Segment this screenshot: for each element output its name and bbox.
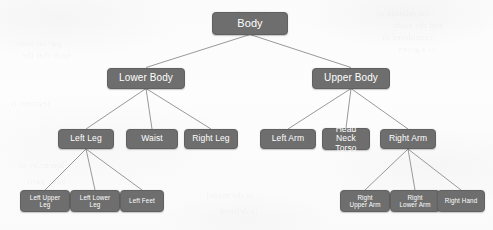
- node-label-right-hand: Right Hand: [445, 197, 478, 204]
- bleed-text-fragment: hierarchy of: [18, 160, 64, 170]
- node-left-upper-leg[interactable]: Left Upper Leg: [20, 190, 70, 212]
- diagram-canvas: the relation ofand the studyconsidered i…: [0, 0, 493, 230]
- node-label-right-leg: Right Leg: [192, 134, 229, 144]
- node-right-upper-arm[interactable]: Right Upper Arm: [340, 190, 390, 212]
- node-label-body: Body: [237, 17, 262, 29]
- node-left-lower-leg[interactable]: Left Lower Leg: [70, 190, 120, 212]
- node-left-leg[interactable]: Left Leg: [58, 129, 114, 149]
- edge-upper-body-to-left-arm: [288, 89, 351, 130]
- edge-lower-body-to-waist: [146, 89, 152, 130]
- node-right-leg[interactable]: Right Leg: [184, 129, 238, 149]
- node-label-left-lower-leg: Left Lower Leg: [80, 194, 110, 208]
- node-right-hand[interactable]: Right Hand: [437, 190, 485, 212]
- node-body[interactable]: Body: [212, 12, 288, 35]
- edge-upper-body-to-right-arm: [351, 89, 408, 130]
- edge-lower-body-to-left-leg: [86, 89, 146, 130]
- bleed-text-fragment: the relation of: [376, 8, 430, 18]
- edge-left-leg-to-left-feet: [86, 149, 142, 190]
- edge-right-arm-to-right-upper-arm: [365, 149, 408, 190]
- bleed-text-fragment: and the study: [392, 20, 443, 30]
- node-left-feet[interactable]: Left Feet: [120, 190, 164, 212]
- edge-upper-body-to-head-neck-torso: [346, 89, 351, 129]
- edge-left-leg-to-left-upper-leg: [45, 149, 86, 190]
- node-right-arm[interactable]: Right Arm: [380, 129, 436, 149]
- bleed-text-fragment: such that the: [22, 50, 70, 60]
- node-label-upper-body: Upper Body: [324, 72, 378, 83]
- edge-right-arm-to-right-lower-arm: [408, 149, 415, 190]
- node-label-left-feet: Left Feet: [129, 197, 155, 204]
- node-label-right-lower-arm: Right Lower Arm: [400, 194, 431, 208]
- node-label-right-upper-arm: Right Upper Arm: [350, 194, 381, 208]
- node-label-right-arm: Right Arm: [389, 134, 427, 144]
- node-label-left-leg: Left Leg: [70, 134, 102, 144]
- node-lower-body[interactable]: Lower Body: [107, 68, 185, 89]
- node-label-waist: Waist: [141, 134, 162, 144]
- node-head-neck-torso[interactable]: Head Neck Torso: [322, 128, 370, 150]
- bleed-text-fragment: segment is: [10, 98, 50, 108]
- node-label-lower-body: Lower Body: [119, 72, 173, 83]
- bleed-text-fragment: is defined: [220, 206, 257, 216]
- edge-right-arm-to-right-hand: [408, 149, 461, 190]
- node-waist[interactable]: Waist: [126, 129, 178, 149]
- node-label-left-arm: Left Arm: [272, 134, 304, 144]
- edge-left-leg-to-left-lower-leg: [86, 149, 95, 190]
- bleed-text-fragment: partial order: [14, 38, 61, 48]
- bleed-text-fragment: in the model: [206, 190, 253, 200]
- bleed-text-fragment: considered in: [382, 32, 433, 42]
- node-upper-body[interactable]: Upper Body: [312, 68, 390, 89]
- node-left-arm[interactable]: Left Arm: [260, 129, 316, 149]
- edge-body-to-lower-body: [146, 35, 250, 68]
- bleed-text-fragment: body parts: [26, 176, 66, 186]
- edge-body-to-upper-body: [250, 35, 351, 68]
- node-right-lower-arm[interactable]: Right Lower Arm: [390, 190, 440, 212]
- node-label-head-neck-torso: Head Neck Torso: [326, 125, 366, 154]
- edge-lower-body-to-right-leg: [146, 89, 211, 130]
- bleed-text-fragment: of a given: [398, 44, 436, 54]
- node-label-left-upper-leg: Left Upper Leg: [30, 194, 60, 208]
